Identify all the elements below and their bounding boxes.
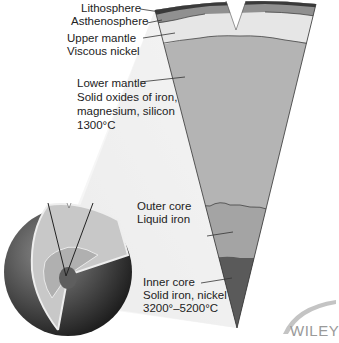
label-text: Solid oxides of iron, [77, 90, 177, 104]
label-inner-core: Inner core Solid iron, nickel 3200°–5200… [143, 276, 227, 315]
label-text: Asthenosphere [71, 15, 148, 28]
label-text: Solid iron, nickel [143, 289, 227, 302]
label-upper-mantle: Upper mantle Viscous nickel [67, 32, 140, 58]
label-text: Liquid iron [137, 213, 191, 226]
label-text: Outer core [137, 200, 191, 213]
label-text: magnesium, silicon [77, 104, 177, 118]
label-lower-mantle: Lower mantle Solid oxides of iron, magne… [77, 76, 177, 132]
label-text: Lower mantle [77, 76, 177, 90]
label-outer-core: Outer core Liquid iron [137, 200, 191, 226]
label-lithosphere: Lithosphere [81, 2, 141, 15]
label-text: Lithosphere [81, 2, 141, 15]
label-text: Viscous nickel [67, 45, 140, 58]
earth-globe [4, 203, 132, 336]
label-text: Upper mantle [67, 32, 140, 45]
label-text: Inner core [143, 276, 227, 289]
label-asthenosphere: Asthenosphere [71, 15, 148, 28]
wiley-logo: WILEY [290, 322, 339, 339]
label-text: 1300°C [77, 118, 177, 132]
label-text: 3200°–5200°C [143, 302, 227, 315]
